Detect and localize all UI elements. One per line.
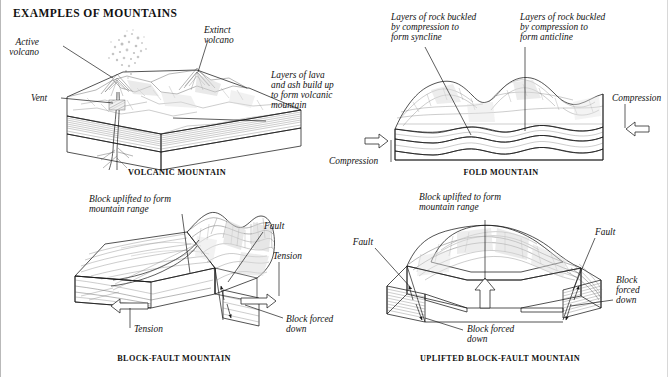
label-compression-left: Compression bbox=[329, 156, 378, 166]
leader-active-volcano bbox=[63, 46, 113, 78]
arrow-up-outline-icon bbox=[475, 278, 495, 308]
label-block-forced-down-right: Block forced down bbox=[616, 275, 640, 305]
svg-text:mountain: mountain bbox=[271, 100, 307, 110]
svg-text:form anticline: form anticline bbox=[520, 32, 573, 42]
compression-right-group: Compression bbox=[612, 93, 661, 136]
magma-conduit bbox=[97, 92, 133, 170]
svg-text:Layers of rock buckled: Layers of rock buckled bbox=[519, 12, 606, 22]
svg-text:and ash build up: and ash build up bbox=[271, 80, 334, 90]
uplifted-right-strata bbox=[563, 264, 602, 314]
svg-text:Layers of rock buckled: Layers of rock buckled bbox=[390, 12, 477, 22]
label-fault-right-uplifted: Fault bbox=[594, 227, 616, 237]
arrow-right-outline-icon bbox=[241, 294, 276, 308]
label-block-forced-down-left: Block forced down bbox=[467, 324, 515, 344]
caption-uplifted-block-fault-mountain: UPLIFTED BLOCK-FAULT MOUNTAIN bbox=[420, 354, 580, 363]
svg-text:Block uplifted to form: Block uplifted to form bbox=[419, 192, 501, 202]
leader-block-forced-down-left bbox=[425, 318, 463, 330]
arrow-left-outline-icon bbox=[111, 299, 148, 313]
diagram-page: EXAMPLES OF MOUNTAINS bbox=[0, 0, 668, 377]
block-fault-mountain-texture bbox=[187, 218, 274, 280]
label-fault-right: Fault bbox=[263, 221, 285, 231]
caption-fold-mountain: FOLD MOUNTAIN bbox=[463, 168, 538, 177]
svg-text:mountain range: mountain range bbox=[419, 202, 479, 212]
svg-text:Extinct: Extinct bbox=[203, 25, 231, 35]
figure-volcanic-mountain: Active volcano Extinct volcano Vent Laye… bbox=[9, 25, 334, 177]
label-compression-right: Compression bbox=[612, 93, 661, 103]
leader-block-forced-down-right bbox=[571, 300, 613, 306]
label-block-forced-down: Block forced down bbox=[286, 314, 334, 334]
svg-text:to form volcanic: to form volcanic bbox=[271, 90, 333, 100]
caption-volcanic-mountain: VOLCANIC MOUNTAIN bbox=[128, 168, 226, 177]
svg-text:by compression to: by compression to bbox=[391, 22, 459, 32]
label-vent: Vent bbox=[31, 93, 48, 103]
svg-text:volcano: volcano bbox=[204, 35, 234, 45]
svg-text:down: down bbox=[467, 334, 488, 344]
label-tension-right: Tension bbox=[273, 251, 302, 261]
caption-block-fault-mountain: BLOCK-FAULT MOUNTAIN bbox=[117, 354, 230, 363]
label-extinct-volcano: Extinct volcano bbox=[203, 25, 234, 45]
figure-uplifted-block-fault-mountain: Block uplifted to form mountain range Fa… bbox=[352, 192, 640, 363]
svg-text:Block forced: Block forced bbox=[286, 314, 334, 324]
label-anticline: Layers of rock buckled by compression to… bbox=[519, 12, 606, 42]
block-fault-tilted-plain-texture bbox=[81, 234, 211, 279]
mountains-diagram-canvas: EXAMPLES OF MOUNTAINS bbox=[1, 0, 668, 377]
svg-text:Layers of lava: Layers of lava bbox=[270, 70, 325, 80]
svg-text:volcano: volcano bbox=[9, 47, 39, 57]
svg-text:Vent: Vent bbox=[31, 93, 48, 103]
fault-slip-arrow-right-icon bbox=[566, 286, 579, 320]
svg-text:Block forced: Block forced bbox=[467, 324, 515, 334]
svg-text:down: down bbox=[616, 295, 637, 305]
page-title: EXAMPLES OF MOUNTAINS bbox=[13, 7, 177, 19]
leader-fault-left bbox=[375, 248, 412, 289]
arrow-right-outline-icon bbox=[365, 134, 388, 148]
label-active-volcano: Active volcano bbox=[9, 37, 39, 57]
compression-left-group: Compression bbox=[329, 134, 391, 166]
svg-text:Block uplifted to form: Block uplifted to form bbox=[89, 194, 171, 204]
label-block-uplifted-left: Block uplifted to form mountain range bbox=[89, 194, 171, 214]
leader-block-forced-down bbox=[245, 305, 283, 318]
label-tension-bottom: Tension bbox=[134, 324, 163, 334]
figure-fold-mountain: Layers of rock buckled by compression to… bbox=[329, 12, 661, 177]
svg-text:by compression to: by compression to bbox=[520, 22, 588, 32]
svg-text:mountain range: mountain range bbox=[89, 204, 149, 214]
leader-vent bbox=[61, 98, 113, 103]
figure-block-fault-mountain: Tension Tension Block uplifted to form m… bbox=[75, 194, 334, 363]
svg-text:Active: Active bbox=[15, 37, 39, 47]
label-layers-of-lava: Layers of lava and ash build up to form … bbox=[270, 70, 334, 110]
svg-text:down: down bbox=[286, 324, 307, 334]
arrow-left-outline-icon bbox=[626, 122, 649, 136]
label-block-uplifted-right: Block uplifted to form mountain range bbox=[419, 192, 501, 212]
label-syncline: Layers of rock buckled by compression to… bbox=[390, 12, 477, 42]
svg-text:forced: forced bbox=[616, 285, 640, 295]
svg-text:Block: Block bbox=[616, 275, 638, 285]
label-fault-left: Fault bbox=[352, 237, 374, 247]
svg-text:form syncline: form syncline bbox=[391, 32, 442, 42]
